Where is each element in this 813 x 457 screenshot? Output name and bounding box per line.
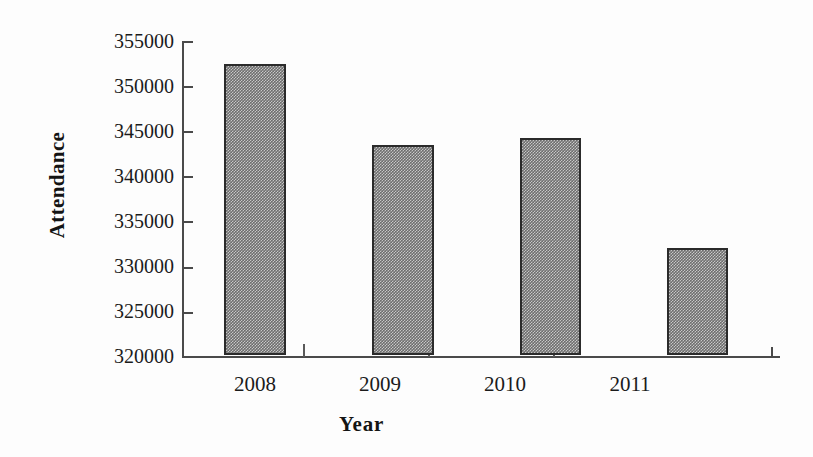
x-tick-label-2010: 2010 (445, 372, 565, 396)
y-tick-label: 350000 (66, 76, 174, 96)
x-tick-label-2009: 2009 (320, 372, 440, 396)
y-axis-tick-labels: 355000 350000 345000 340000 335000 33000… (66, 0, 174, 457)
x-axis-title-wrap: Year (0, 412, 813, 437)
x-axis-line (182, 356, 780, 358)
x-axis-title: Year (339, 412, 384, 437)
y-tick-label: 355000 (66, 31, 174, 51)
y-tick-label: 325000 (66, 301, 174, 321)
y-axis-tick (184, 86, 193, 88)
y-tick-label: 330000 (66, 256, 174, 276)
y-tick-label: 335000 (66, 211, 174, 231)
y-tick-label: 340000 (66, 166, 174, 186)
bar-2009 (372, 145, 434, 355)
y-axis-tick (184, 176, 193, 178)
y-axis-tick (184, 312, 193, 314)
y-axis-tick (184, 131, 193, 133)
bar-2011 (667, 248, 728, 355)
y-tick-label: 345000 (66, 121, 174, 141)
plot-area (182, 41, 780, 357)
x-axis-end-cap (771, 347, 773, 358)
bar-2008 (224, 64, 286, 355)
y-tick-label: 320000 (66, 346, 174, 366)
x-axis-tick (303, 344, 305, 357)
x-tick-label-2011: 2011 (570, 372, 690, 396)
y-axis-line (182, 41, 184, 358)
x-tick-label-2008: 2008 (195, 372, 315, 396)
y-axis-tick (184, 221, 193, 223)
y-axis-tick (184, 267, 193, 269)
y-axis-tick (184, 41, 193, 43)
bar-chart: Attendance 355000 350000 345000 340000 3… (0, 0, 813, 457)
bar-2010 (520, 138, 581, 355)
